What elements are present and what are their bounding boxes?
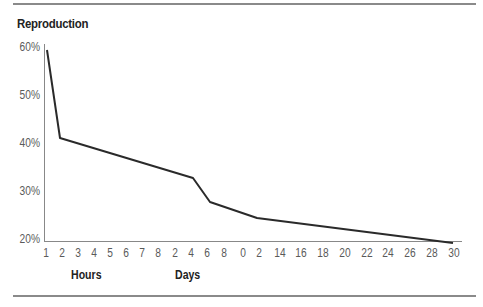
plot-area — [0, 0, 483, 307]
bottom-rule — [13, 295, 476, 297]
data-line — [47, 50, 453, 243]
